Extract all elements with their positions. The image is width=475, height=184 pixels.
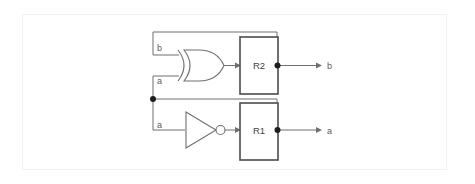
junction-dot-r2-output [275, 63, 281, 69]
diagram-canvas: R2 b b a R1 a a [0, 0, 475, 184]
xor-input-a-label: a [157, 76, 162, 86]
xor-gate-body [184, 50, 224, 81]
junction-dot-node-a [150, 96, 156, 102]
not-gate-body [186, 112, 216, 148]
output-a-arrow [316, 127, 322, 133]
output-b-arrow [316, 63, 322, 69]
not-gate-bubble-icon [216, 126, 225, 135]
output-a-label: a [327, 126, 332, 136]
register-r1-label: R1 [253, 125, 265, 136]
register-r2-label: R2 [253, 60, 265, 71]
junction-dot-r1-output [275, 127, 281, 133]
circuit-schematic: R2 b b a R1 a a [0, 0, 475, 184]
output-b-label: b [327, 61, 332, 71]
not-input-a-label: a [157, 120, 162, 130]
xor-input-b-label: b [157, 43, 162, 53]
